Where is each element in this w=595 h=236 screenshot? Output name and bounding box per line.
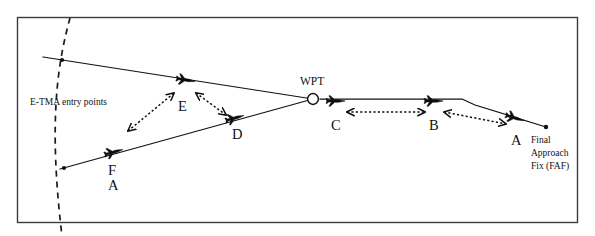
north-entry-point-marker (60, 58, 64, 62)
aircraft-label-a: A (511, 132, 522, 148)
faf-label-line2: Approach (531, 148, 569, 158)
aircraft-label-a-second: A (108, 177, 119, 193)
faf-label-line3: Fix (FAF) (531, 161, 569, 172)
figure-root: E-TMA entry points WPT E F A D C B A Fin… (0, 0, 595, 236)
faf-endpoint-marker (544, 125, 548, 129)
aircraft-label-e: E (178, 98, 187, 114)
faf-label-line1: Final (531, 135, 551, 145)
south-entry-point-marker (62, 166, 66, 170)
e-tma-entry-points-label: E-TMA entry points (30, 97, 107, 107)
aircraft-label-c: C (331, 117, 341, 133)
approach-sequencing-diagram: E-TMA entry points WPT E F A D C B A Fin… (0, 0, 595, 236)
figure-border (18, 18, 578, 223)
aircraft-label-d: D (232, 126, 242, 142)
waypoint-label: WPT (300, 75, 324, 87)
aircraft-label-f: F (108, 162, 116, 178)
aircraft-label-b: B (429, 117, 439, 133)
waypoint-circle-icon (308, 94, 319, 105)
